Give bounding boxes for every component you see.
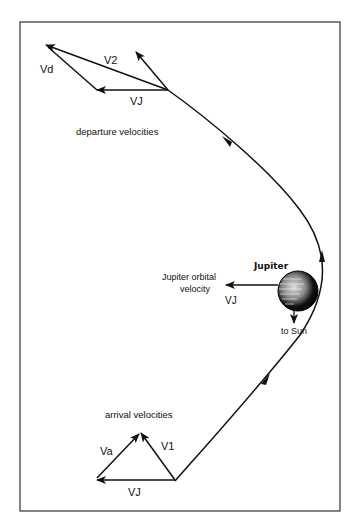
jupiter-orbital-velocity-label-1: Jupiter orbital xyxy=(162,272,216,282)
arrival-va-label: Va xyxy=(100,445,114,457)
departure-caption: departure velocities xyxy=(76,126,159,137)
jupiter-vj-label: VJ xyxy=(225,295,237,306)
trajectory-direction-arrow-upper xyxy=(222,136,232,147)
jupiter-label: Jupiter xyxy=(253,261,289,271)
diagram-frame xyxy=(20,22,340,511)
departure-vj-label: VJ xyxy=(130,95,143,107)
trajectory-direction-arrow-lower xyxy=(261,373,270,385)
arrival-caption: arrival velocities xyxy=(105,409,173,420)
departure-vd-label: Vd xyxy=(40,63,53,75)
to-sun-label: to Sun xyxy=(281,326,307,336)
departure-v2-label: V2 xyxy=(104,54,117,66)
jupiter-planet xyxy=(278,271,318,311)
arrival-vj-label: VJ xyxy=(128,486,141,498)
jupiter-orbital-velocity-label-2: velocity xyxy=(180,284,211,294)
arrival-v1-label: V1 xyxy=(161,440,174,452)
departure-vd-vector xyxy=(48,47,97,90)
gravity-assist-diagram: V2 Vd VJ departure velocities Jupiter Ju… xyxy=(0,0,356,528)
